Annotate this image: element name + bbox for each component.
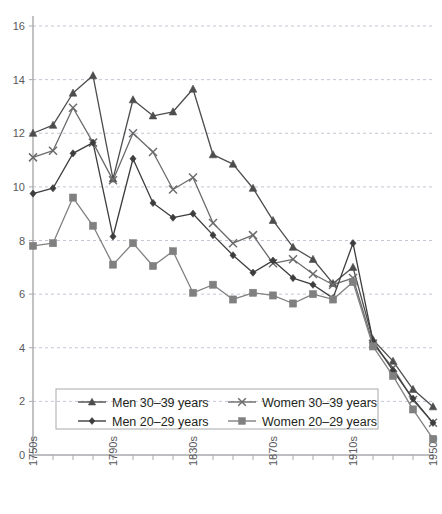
square-marker <box>189 289 196 296</box>
y-tick-label: 2 <box>19 395 25 407</box>
line-chart: 0246810121416 1750s1790s1830s1870s1910s1… <box>0 0 442 514</box>
chart-legend: Men 30–39 yearsWomen 30–39 yearsMen 20–2… <box>56 389 378 429</box>
square-marker <box>329 296 336 303</box>
square-marker <box>369 343 376 350</box>
triangle-marker <box>349 263 357 270</box>
triangle-marker <box>89 72 97 79</box>
square-marker <box>29 242 36 249</box>
series-line <box>33 76 433 407</box>
diamond-marker <box>130 155 136 162</box>
diamond-marker <box>150 199 156 206</box>
cross-marker <box>69 104 77 112</box>
x-axis <box>33 455 433 460</box>
y-axis <box>29 16 33 455</box>
diamond-marker <box>30 190 36 197</box>
square-marker <box>129 240 136 247</box>
square-marker <box>389 372 396 379</box>
square-marker <box>69 194 76 201</box>
cross-marker <box>309 270 317 278</box>
square-marker <box>169 248 176 255</box>
legend-label: Women 20–29 years <box>262 415 377 429</box>
square-marker <box>49 240 56 247</box>
series-line <box>33 143 433 423</box>
cross-marker <box>249 231 257 239</box>
square-marker <box>229 296 236 303</box>
triangle-marker <box>209 151 217 158</box>
y-tick-label: 4 <box>19 342 25 354</box>
triangle-marker <box>229 160 237 167</box>
triangle-marker <box>129 96 137 103</box>
y-tick-label: 10 <box>13 181 25 193</box>
square-marker <box>209 281 216 288</box>
y-tick-label: 12 <box>13 127 25 139</box>
triangle-marker <box>189 85 197 92</box>
square-marker <box>349 278 356 285</box>
legend-item-4[interactable]: Women 20–29 years <box>228 415 377 429</box>
diamond-marker <box>170 214 176 221</box>
triangle-marker <box>49 121 57 128</box>
y-tick-labels: 0246810121416 <box>13 20 25 461</box>
triangle-marker <box>269 216 277 223</box>
legend-label: Men 20–29 years <box>112 415 209 429</box>
square-marker <box>109 261 116 268</box>
series-layer <box>29 72 437 443</box>
square-marker <box>429 435 436 442</box>
cross-marker <box>189 173 197 181</box>
square-marker <box>409 406 416 413</box>
legend-item-1[interactable]: Men 30–39 years <box>78 396 209 410</box>
square-marker <box>269 292 276 299</box>
square-marker <box>239 418 246 425</box>
x-tick-labels: 1750s1790s1830s1870s1910s1950s <box>27 436 439 466</box>
square-marker <box>249 289 256 296</box>
x-tick-label: 1790s <box>107 436 119 466</box>
diamond-marker <box>350 240 356 247</box>
legend-item-3[interactable]: Men 20–29 years <box>78 415 209 429</box>
y-tick-label: 0 <box>19 449 25 461</box>
x-tick-label: 1910s <box>347 436 359 466</box>
square-marker <box>289 300 296 307</box>
series-line <box>33 108 433 423</box>
square-marker <box>89 222 96 229</box>
cross-marker <box>209 219 217 227</box>
diamond-marker <box>110 233 116 240</box>
legend-label: Women 30–39 years <box>262 396 377 410</box>
series-3 <box>30 139 436 426</box>
square-marker <box>149 262 156 269</box>
square-marker <box>309 291 316 298</box>
legend-item-2[interactable]: Women 30–39 years <box>228 396 377 410</box>
x-tick-label: 1750s <box>27 436 39 466</box>
legend-label: Men 30–39 years <box>112 396 209 410</box>
cross-marker <box>49 147 57 155</box>
cross-marker <box>149 148 157 156</box>
triangle-marker <box>309 255 317 262</box>
diamond-marker <box>89 418 95 425</box>
diamond-marker <box>310 281 316 288</box>
y-tick-label: 8 <box>19 235 25 247</box>
y-tick-label: 6 <box>19 288 25 300</box>
y-tick-label: 14 <box>13 74 25 86</box>
x-tick-label: 1870s <box>267 436 279 466</box>
x-tick-label: 1830s <box>187 436 199 466</box>
series-2 <box>29 104 437 427</box>
chart-container: 0246810121416 1750s1790s1830s1870s1910s1… <box>0 0 442 514</box>
y-tick-label: 16 <box>13 20 25 32</box>
